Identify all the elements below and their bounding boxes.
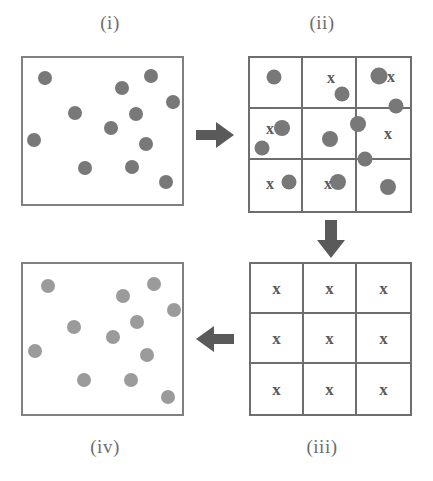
panel-label-i: (i) — [60, 12, 160, 34]
x-mark: x — [379, 381, 388, 398]
data-point — [27, 133, 41, 147]
grid-iii-cell-r2c2: x — [304, 314, 357, 364]
data-point — [104, 121, 118, 135]
data-point — [161, 390, 175, 404]
grid-ii-cell-r1c2 — [303, 58, 356, 109]
data-point — [140, 348, 154, 362]
arrow-down-icon — [314, 216, 348, 262]
data-point — [115, 81, 129, 95]
x-mark: x — [379, 280, 388, 297]
panel-label-ii: (ii) — [272, 12, 372, 34]
grid-ii-cell-r2c1 — [250, 109, 303, 160]
grid-ii-cell-r1c3 — [357, 58, 410, 109]
grid-ii-cell-r3c2 — [303, 160, 356, 211]
grid-iii-cell-r2c1: x — [251, 314, 304, 364]
grid-iii-cell-r3c1: x — [251, 364, 304, 414]
panel-iii-grid: x x x x x x x x x — [249, 262, 412, 416]
x-mark: x — [272, 280, 281, 297]
data-point — [28, 344, 42, 358]
grid-ii-cell-r2c2 — [303, 109, 356, 160]
data-point — [41, 279, 55, 293]
x-mark: x — [325, 330, 334, 347]
grid-iii-cell-r1c1: x — [251, 264, 304, 314]
data-point — [129, 107, 143, 121]
grid-ii-cell-r2c3 — [357, 109, 410, 160]
grid-iii-cell-r1c3: x — [357, 264, 410, 314]
data-point — [159, 175, 173, 189]
grid-iii-cell-r2c3: x — [357, 314, 410, 364]
data-point — [78, 161, 92, 175]
data-point — [77, 373, 91, 387]
x-mark: x — [272, 381, 281, 398]
x-mark: x — [325, 381, 334, 398]
figure-canvas: (i) (ii) (iv) (iii) xxxxxx x x x x x x x… — [0, 0, 433, 481]
grid-ii-cell-r1c1 — [250, 58, 303, 109]
x-mark: x — [379, 330, 388, 347]
data-point — [167, 303, 181, 317]
data-point — [68, 106, 82, 120]
panel-label-iii: (iii) — [272, 436, 372, 458]
data-point — [144, 69, 158, 83]
panel-iv-box — [21, 262, 184, 416]
panel-i-box — [21, 56, 184, 206]
arrow-left-icon — [192, 322, 238, 356]
grid-ii-cell-r3c1 — [250, 160, 303, 211]
data-point — [116, 289, 130, 303]
data-point — [38, 71, 52, 85]
x-mark: x — [272, 330, 281, 347]
data-point — [106, 330, 120, 344]
grid-iii-cell-r3c2: x — [304, 364, 357, 414]
grid-ii-cell-r3c3 — [357, 160, 410, 211]
panel-label-iv: (iv) — [55, 436, 155, 458]
grid-iii-cell-r1c2: x — [304, 264, 357, 314]
x-mark: x — [325, 280, 334, 297]
data-point — [67, 320, 81, 334]
grid-iii-cell-r3c3: x — [357, 364, 410, 414]
data-point — [166, 95, 180, 109]
arrow-right-icon — [192, 118, 238, 152]
data-point — [139, 137, 153, 151]
data-point — [130, 315, 144, 329]
data-point — [147, 277, 161, 291]
data-point — [125, 160, 139, 174]
data-point — [124, 373, 138, 387]
panel-ii-grid — [248, 56, 412, 213]
